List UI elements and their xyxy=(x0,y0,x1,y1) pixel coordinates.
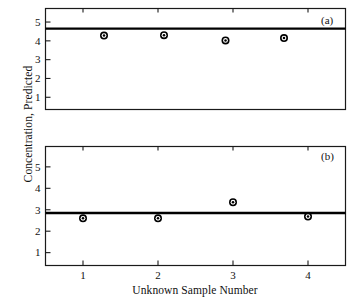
data-point xyxy=(100,32,108,40)
y-tick-label: 2 xyxy=(35,225,41,237)
data-point xyxy=(154,214,162,222)
panel-a-tag: (a) xyxy=(321,14,333,26)
y-tick-label: 5 xyxy=(35,161,41,173)
y-tick-label: 4 xyxy=(35,35,41,47)
x-tick-label: 3 xyxy=(230,269,236,281)
y-tick-label: 1 xyxy=(35,246,41,258)
figure-container: Concentration, Predicted Unknown Sample … xyxy=(0,0,358,307)
data-point xyxy=(79,214,87,222)
y-axis-label: Concentration, Predicted xyxy=(22,34,34,214)
y-tick-label: 3 xyxy=(35,204,41,216)
y-tick-label: 2 xyxy=(35,72,41,84)
panel-b-tag: (b) xyxy=(321,150,334,162)
y-tick-label: 4 xyxy=(35,182,41,194)
panel-a: 12345 xyxy=(35,9,346,110)
y-tick-label: 1 xyxy=(35,91,41,103)
chart-canvas: 12345 12345 1234 xyxy=(0,0,358,307)
x-tick-label: 4 xyxy=(305,269,311,281)
x-tick-label: 1 xyxy=(80,269,86,281)
y-tick-label: 3 xyxy=(35,53,41,65)
panel-b: 12345 xyxy=(35,147,346,266)
data-point xyxy=(222,36,230,44)
data-point xyxy=(229,198,237,206)
y-tick-label: 5 xyxy=(35,16,41,28)
data-point xyxy=(160,31,168,39)
panel-frame xyxy=(46,147,346,266)
data-point xyxy=(280,34,288,42)
x-tick-label: 2 xyxy=(155,269,161,281)
data-point xyxy=(304,213,312,221)
x-axis: 1234 xyxy=(80,261,311,281)
x-axis-label: Unknown Sample Number xyxy=(45,284,345,296)
panel-frame xyxy=(46,9,346,110)
